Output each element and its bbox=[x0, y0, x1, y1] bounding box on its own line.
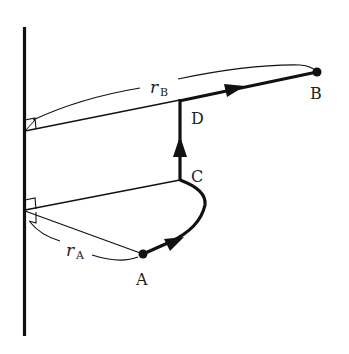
label-B: B bbox=[310, 84, 322, 103]
label-D: D bbox=[191, 109, 204, 128]
point-B-dot bbox=[313, 68, 322, 77]
label-rA-subscript: A bbox=[75, 249, 85, 262]
label-rB-subscript: B bbox=[160, 86, 168, 99]
radial-line-to-C bbox=[25, 180, 180, 210]
path-D-to-B bbox=[179, 72, 317, 101]
label-rA: r bbox=[66, 240, 75, 260]
label-A: A bbox=[135, 270, 148, 289]
label-C: C bbox=[191, 167, 203, 186]
arrow-head-D-to-B bbox=[224, 84, 245, 97]
rB-arc-left bbox=[33, 88, 140, 120]
rA-arc-left bbox=[30, 222, 60, 241]
point-A-dot bbox=[139, 250, 148, 259]
arrow-head-A-to-C bbox=[164, 237, 184, 251]
arrow-head-C-to-D bbox=[173, 136, 187, 157]
rA-arc-right bbox=[92, 255, 138, 260]
label-rB: r bbox=[150, 77, 159, 97]
radial-line-to-A bbox=[25, 211, 143, 254]
diagram-canvas: A B C D r B r A bbox=[0, 0, 349, 354]
radial-line-to-D bbox=[25, 100, 180, 131]
right-angle-marker-lower bbox=[25, 198, 36, 209]
